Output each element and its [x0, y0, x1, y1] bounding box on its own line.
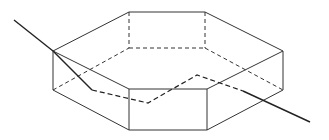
visible-edge: [53, 51, 129, 89]
visible-edge: [205, 12, 283, 51]
prism-hidden-edges: [53, 12, 283, 90]
ray-line: [14, 20, 310, 122]
visible-edge: [53, 12, 129, 51]
ray-visible-segment: [14, 20, 53, 51]
hexagonal-prism-diagram: [0, 0, 329, 140]
ray-visible-segment: [53, 51, 92, 90]
ray-visible-segment: [243, 91, 310, 122]
visible-edge: [207, 90, 283, 130]
